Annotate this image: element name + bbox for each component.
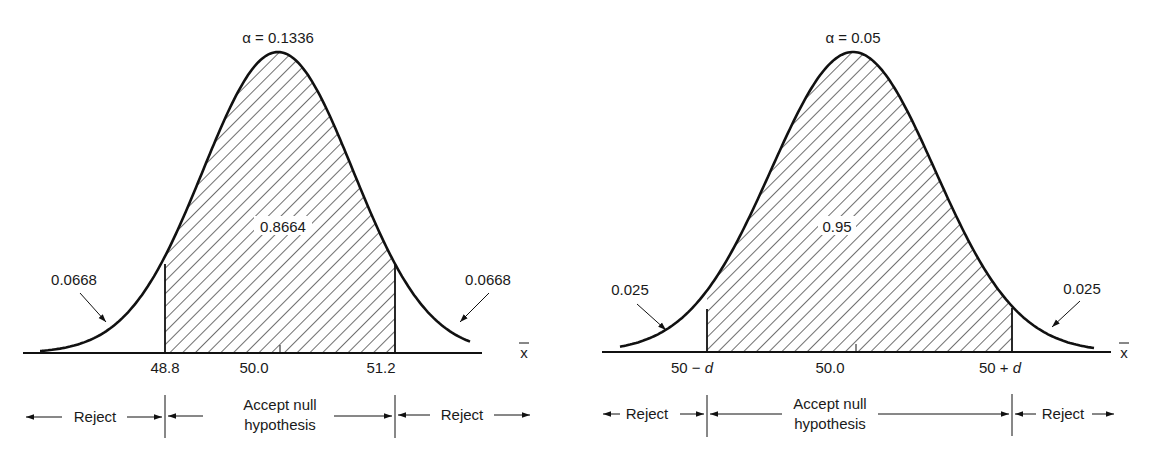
center-area-label: 0.95 bbox=[822, 218, 851, 235]
center-area-label: 0.8664 bbox=[260, 218, 306, 235]
tick-label-mean: 50.0 bbox=[815, 359, 844, 376]
accept-region-shading bbox=[40, 52, 470, 353]
tick-label-right: 51.2 bbox=[366, 359, 395, 376]
tick-label-mean: 50.0 bbox=[239, 359, 268, 376]
reject-right-label: Reject bbox=[441, 406, 484, 423]
tick-label-left: 48.8 bbox=[150, 359, 179, 376]
tick-label-right: 50 + d bbox=[979, 359, 1022, 376]
left-tail-arrow bbox=[637, 304, 666, 330]
alpha-label: α = 0.05 bbox=[826, 29, 881, 46]
right-tail-label: 0.025 bbox=[1063, 280, 1101, 297]
accept-label-line1: Accept null bbox=[243, 396, 316, 413]
right-tail-label: 0.0668 bbox=[465, 271, 511, 288]
reject-left-label: Reject bbox=[74, 408, 117, 425]
hypothesis-test-figure: α = 0.1336 0.8664 0.0668 0.0668 x 48.8 5… bbox=[0, 0, 1157, 465]
right-chart: α = 0.05 0.95 0.025 0.025 x 50 − d 50.0 … bbox=[602, 29, 1129, 437]
axis-label-xbar: x bbox=[520, 344, 528, 361]
left-tail-label: 0.025 bbox=[611, 281, 649, 298]
left-chart: α = 0.1336 0.8664 0.0668 0.0668 x 48.8 5… bbox=[23, 29, 530, 438]
accept-label-line2: hypothesis bbox=[244, 416, 316, 433]
right-tail-arrow bbox=[1052, 301, 1080, 327]
accept-region-shading bbox=[620, 52, 1094, 352]
right-tail-arrow bbox=[460, 293, 489, 322]
accept-label-line1: Accept null bbox=[793, 395, 866, 412]
accept-label-line2: hypothesis bbox=[794, 415, 866, 432]
tick-label-left: 50 − d bbox=[671, 359, 714, 376]
left-tail-arrow bbox=[80, 293, 106, 322]
reject-right-label: Reject bbox=[1042, 405, 1085, 422]
reject-left-label: Reject bbox=[626, 405, 669, 422]
axis-label-xbar: x bbox=[1120, 344, 1128, 361]
alpha-label: α = 0.1336 bbox=[242, 29, 314, 46]
left-tail-label: 0.0668 bbox=[51, 271, 97, 288]
